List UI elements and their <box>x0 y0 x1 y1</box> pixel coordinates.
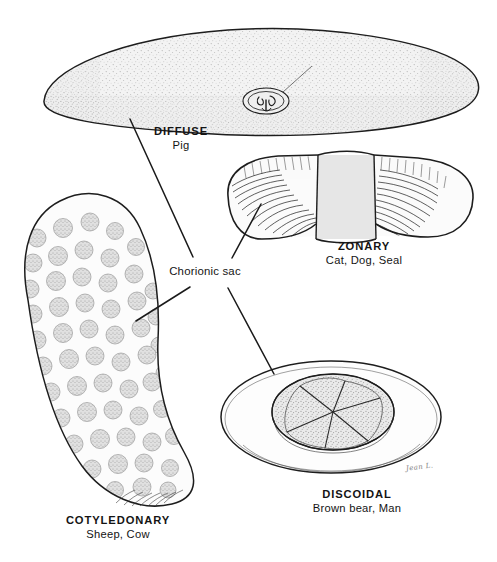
label-cotyledonary: COTYLEDONARY Sheep, Cow <box>66 513 170 542</box>
specimen-discoidal <box>221 361 441 473</box>
specimen-zonary <box>228 151 473 243</box>
label-discoidal: DISCOIDAL Brown bear, Man <box>313 487 401 516</box>
label-diffuse-species: Pig <box>154 138 208 152</box>
label-discoidal-type: DISCOIDAL <box>313 487 401 501</box>
label-zonary: ZONARY Cat, Dog, Seal <box>326 239 402 268</box>
label-diffuse-type: DIFFUSE <box>154 124 208 138</box>
label-cotyledonary-species: Sheep, Cow <box>66 527 170 541</box>
label-cotyledonary-type: COTYLEDONARY <box>66 513 170 527</box>
label-zonary-species: Cat, Dog, Seal <box>326 253 402 267</box>
label-zonary-type: ZONARY <box>326 239 402 253</box>
placentation-figure <box>0 0 497 562</box>
label-diffuse: DIFFUSE Pig <box>154 124 208 153</box>
label-chorionic-sac: Chorionic sac <box>169 265 241 277</box>
zonary-central-band <box>316 155 376 239</box>
label-discoidal-species: Brown bear, Man <box>313 501 401 515</box>
